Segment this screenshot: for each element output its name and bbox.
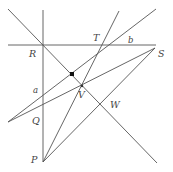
label-a: a xyxy=(33,85,38,95)
label-v: V xyxy=(78,89,86,100)
label-s: S xyxy=(158,48,165,59)
label-t: T xyxy=(93,32,100,43)
line-left-through-dot xyxy=(8,9,156,122)
label-w: W xyxy=(110,99,121,110)
label-b: b xyxy=(128,35,133,45)
marked-point-dot xyxy=(70,72,74,76)
label-p: P xyxy=(30,154,38,165)
point-v-marker xyxy=(81,85,83,87)
line-p-to-s xyxy=(43,48,155,162)
label-q: Q xyxy=(32,115,40,126)
geometry-diagram: R T b S a V W Q P xyxy=(0,0,173,172)
label-r: R xyxy=(28,48,36,59)
